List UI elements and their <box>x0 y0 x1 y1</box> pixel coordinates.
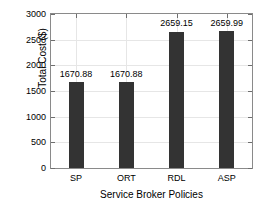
y-axis-tick-right <box>248 117 252 118</box>
x-axis-tick-label: RDL <box>157 174 197 183</box>
x-axis-tick-top <box>126 14 127 18</box>
y-axis-tick-right <box>248 65 252 66</box>
bar-value-label: 2659.99 <box>202 19 252 28</box>
y-axis-tick <box>51 142 55 143</box>
x-axis-tick-label: ORT <box>106 174 146 183</box>
bar <box>169 32 184 169</box>
bar-value-label: 1670.88 <box>51 70 101 79</box>
y-axis-tick <box>51 117 55 118</box>
y-axis-tick <box>51 168 55 169</box>
x-axis-tick-top <box>76 14 77 18</box>
x-axis-label: Service Broker Policies <box>50 190 253 200</box>
bar <box>119 82 134 168</box>
y-axis-tick-label: 3000 <box>0 10 46 19</box>
y-axis-tick-label: 1500 <box>0 87 46 96</box>
y-axis-tick-right <box>248 40 252 41</box>
plot-area <box>50 13 253 169</box>
x-axis-tick-label: SP <box>56 174 96 183</box>
y-axis-tick-right <box>248 91 252 92</box>
bar-chart-figure: Total Cost ($) Service Broker Policies 0… <box>0 0 270 213</box>
y-axis-tick <box>51 14 55 15</box>
y-axis-tick <box>51 91 55 92</box>
y-axis-tick <box>51 65 55 66</box>
y-axis-tick-label: 2000 <box>0 61 46 70</box>
y-axis-tick-right <box>248 14 252 15</box>
bar <box>69 82 84 168</box>
bar-value-label: 2659.15 <box>152 19 202 28</box>
bar-value-label: 1670.88 <box>101 70 151 79</box>
y-axis-tick-right <box>248 142 252 143</box>
y-axis-tick-label: 2500 <box>0 36 46 45</box>
y-axis-tick <box>51 40 55 41</box>
x-axis-tick-label: ASP <box>207 174 247 183</box>
y-axis-tick-label: 0 <box>0 164 46 173</box>
bar <box>219 31 234 168</box>
x-axis-tick-top <box>177 14 178 18</box>
y-axis-tick-label: 500 <box>0 138 46 147</box>
y-axis-tick-right <box>248 168 252 169</box>
x-axis-tick-top <box>227 14 228 18</box>
y-axis-tick-label: 1000 <box>0 113 46 122</box>
